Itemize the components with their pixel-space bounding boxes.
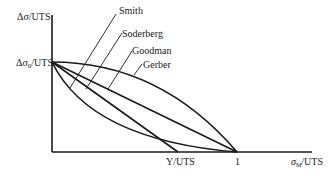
x-tick-yield: Y/UTS <box>166 156 195 167</box>
gerber-leader <box>134 64 142 75</box>
fatigue-diagram: Smith Soderberg Goodman Gerber Δσ/UTS Δσ… <box>0 0 336 176</box>
x-axis-label: σM/UTS <box>291 156 323 168</box>
goodman-line <box>52 62 237 152</box>
soderberg-leader <box>86 33 122 89</box>
y-intercept-label: Δσ0/UTS <box>16 57 53 70</box>
x-tick-one: 1 <box>235 156 240 167</box>
smith-leader <box>70 14 116 88</box>
smith-label: Smith <box>119 5 143 16</box>
goodman-label: Goodman <box>132 45 171 56</box>
gerber-label: Gerber <box>143 59 171 70</box>
soderberg-label: Soderberg <box>122 28 163 39</box>
y-axis-label: Δσ/UTS <box>17 11 51 22</box>
